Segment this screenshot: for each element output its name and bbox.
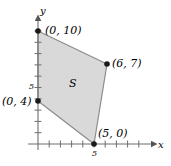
region-label: S bbox=[69, 78, 77, 89]
y-tick-label-5: 5 bbox=[29, 83, 34, 91]
vertex-point-bottom bbox=[91, 141, 97, 147]
vertex-label-top: (0, 10) bbox=[45, 25, 82, 36]
vertex-point-right bbox=[104, 61, 110, 67]
x-axis-label: x bbox=[158, 140, 164, 150]
x-tick-label-5: 5 bbox=[92, 150, 97, 158]
vertex-point-top bbox=[35, 28, 41, 34]
vertex-label-right: (6, 7) bbox=[112, 58, 142, 69]
y-axis-label: y bbox=[40, 6, 46, 16]
vertex-label-bottom: (5, 0) bbox=[98, 128, 128, 139]
coordinate-plane-figure: y x (0, 10) (6, 7) (5, 0) (0, 4) S 5 5 bbox=[0, 0, 171, 166]
vertex-label-left: (0, 4) bbox=[2, 96, 32, 107]
plot-canvas bbox=[0, 0, 171, 166]
vertex-point-left bbox=[35, 98, 41, 104]
